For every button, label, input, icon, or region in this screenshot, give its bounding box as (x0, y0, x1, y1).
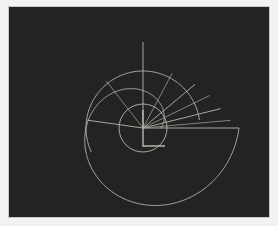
polar-spiral-chart (9, 7, 269, 217)
outer-spiral-path (85, 89, 239, 206)
figure-root (0, 0, 278, 226)
spoke-line (88, 120, 143, 128)
plot-frame (8, 6, 270, 218)
